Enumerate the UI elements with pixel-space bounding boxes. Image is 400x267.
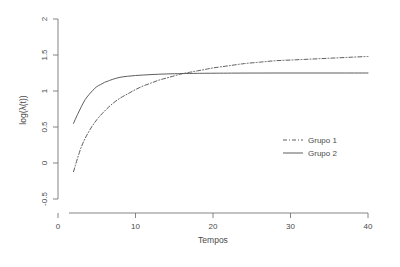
y-tick-label: 2: [40, 16, 49, 21]
y-tick-label: 0.5: [40, 121, 49, 133]
x-tick-label: 40: [364, 222, 373, 231]
legend-label-2: Grupo 2: [308, 149, 337, 158]
x-tick-label: 30: [286, 222, 295, 231]
y-tick-label: -0.5: [40, 192, 49, 206]
x-tick-label: 0: [56, 222, 61, 231]
y-tick-label: 1.5: [40, 49, 49, 61]
y-tick-label: 0: [40, 160, 49, 165]
chart-figure: -0.500.511.52 010203040 Tempos log(λ(t))…: [0, 0, 400, 267]
x-tick-label: 10: [131, 222, 140, 231]
x-axis-title: Tempos: [198, 235, 228, 245]
y-tick-label: 1: [40, 88, 49, 93]
x-tick-label: 20: [209, 222, 218, 231]
legend-label-1: Grupo 1: [308, 136, 337, 145]
chart-svg: -0.500.511.52 010203040 Tempos log(λ(t))…: [0, 0, 400, 267]
y-axis-title: log(λ(t)): [18, 95, 28, 124]
